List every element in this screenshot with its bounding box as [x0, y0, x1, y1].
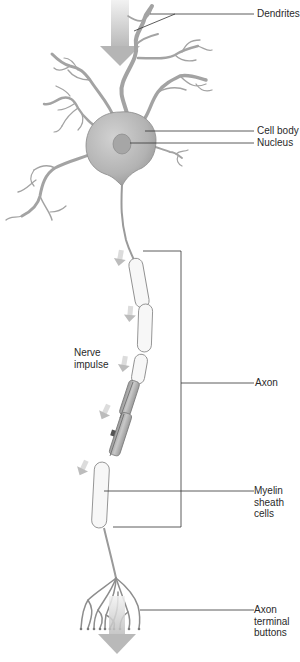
label-dendrites: Dendrites — [257, 8, 300, 20]
label-nucleus: Nucleus — [257, 137, 293, 149]
dendrites — [6, 6, 212, 220]
nucleus — [113, 134, 131, 154]
myelin-sheaths — [128, 257, 153, 385]
neuron-diagram: Dendrites Cell body Nucleus Nerve impuls… — [0, 0, 300, 662]
myelin-sheath-lower — [91, 462, 109, 529]
label-myelin-sheath-cells: Myelin sheath cells — [254, 485, 284, 520]
label-nerve-impulse: Nerve impulse — [74, 347, 108, 370]
cell-body — [86, 112, 156, 186]
label-axon: Axon — [255, 377, 278, 389]
axon-initial-segment — [121, 184, 134, 260]
axon-cutaway — [108, 379, 140, 456]
label-axon-terminal-buttons: Axon terminal buttons — [254, 604, 290, 639]
label-cell-body: Cell body — [257, 125, 299, 137]
dendrites-leader-2 — [134, 14, 175, 31]
neuron-illustration — [0, 0, 300, 662]
leader-lines — [104, 14, 254, 610]
axon-lower — [104, 528, 116, 578]
